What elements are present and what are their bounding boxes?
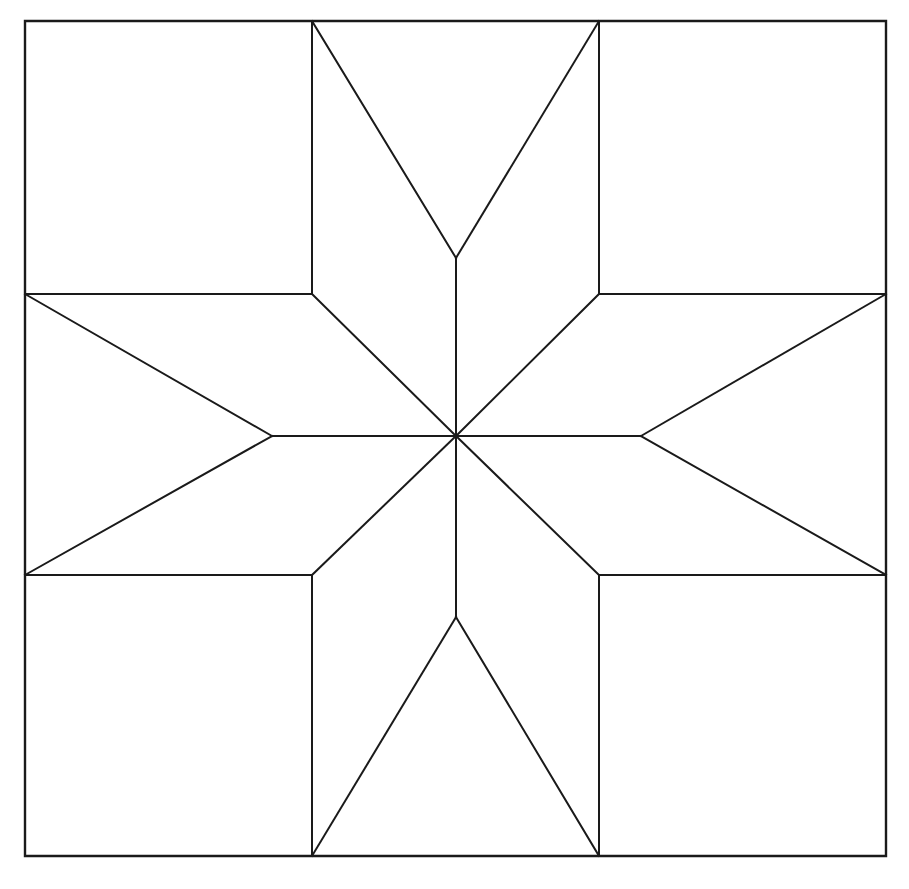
patch-bottom-left-corner-square xyxy=(25,575,312,856)
patch-top-left-corner-square xyxy=(25,21,312,294)
eight-pointed-star-diagram xyxy=(0,0,909,889)
patch-top-right-corner-square xyxy=(599,21,886,294)
patch-bottom-right-corner-square xyxy=(599,575,886,856)
figure-root xyxy=(0,0,909,889)
